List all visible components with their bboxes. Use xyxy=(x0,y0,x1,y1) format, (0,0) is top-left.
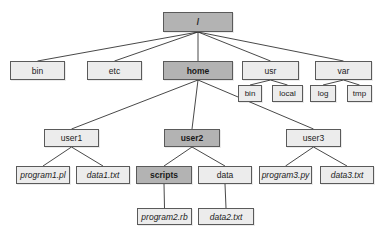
node-label: tmp xyxy=(353,89,366,98)
tree-edge xyxy=(164,147,192,166)
node-label: etc xyxy=(109,66,120,76)
node-scripts-directory: scripts xyxy=(136,166,192,184)
node-label: data2.txt xyxy=(210,212,243,222)
node-bin-directory: bin xyxy=(10,61,65,80)
node-data1-txt-file: data1.txt xyxy=(76,166,130,184)
node-data-directory: data xyxy=(198,166,252,184)
node-label: program3.py xyxy=(262,170,310,180)
node-var-tmp-directory: tmp xyxy=(347,85,372,102)
node-usr-local-directory: local xyxy=(272,85,303,102)
tree-edge xyxy=(43,147,72,166)
tree-edges xyxy=(0,0,386,237)
tree-edge xyxy=(192,80,198,129)
tree-edge xyxy=(286,147,314,166)
node-data2-txt-file: data2.txt xyxy=(198,208,254,225)
node-label: bin xyxy=(245,89,256,98)
tree-edge xyxy=(72,147,104,166)
node-label: bin xyxy=(32,66,43,76)
node-var-directory: var xyxy=(315,61,372,80)
node-user1-directory: user1 xyxy=(44,129,99,147)
node-program1-pl-file: program1.pl xyxy=(16,166,70,184)
tree-edge xyxy=(198,32,344,61)
tree-edge xyxy=(198,32,271,61)
node-label: data xyxy=(217,170,234,180)
node-label: program2.rb xyxy=(141,212,187,222)
node-etc-directory: etc xyxy=(87,61,142,80)
node-program2-rb-file: program2.rb xyxy=(137,208,192,225)
node-usr-bin-directory: bin xyxy=(238,85,262,102)
node-root-directory: / xyxy=(163,12,233,32)
tree-edge xyxy=(164,184,165,208)
node-label: log xyxy=(318,89,329,98)
node-user3-directory: user3 xyxy=(286,129,341,147)
directory-tree-diagram: / bin etc home usr var bin local log tmp… xyxy=(0,0,386,237)
node-label: program1.pl xyxy=(20,170,65,180)
node-user2-directory: user2 xyxy=(164,129,220,147)
node-program3-py-file: program3.py xyxy=(259,166,312,184)
node-label: scripts xyxy=(150,170,178,180)
node-label: data3.txt xyxy=(331,170,364,180)
node-label: data1.txt xyxy=(87,170,120,180)
tree-edge xyxy=(314,147,348,166)
node-label: / xyxy=(197,17,199,27)
tree-edge xyxy=(38,32,199,61)
node-home-directory: home xyxy=(163,61,233,80)
node-data3-txt-file: data3.txt xyxy=(320,166,374,184)
node-label: var xyxy=(338,66,350,76)
node-label: local xyxy=(279,89,295,98)
node-usr-directory: usr xyxy=(242,61,299,80)
node-var-log-directory: log xyxy=(310,85,336,102)
node-label: usr xyxy=(265,66,277,76)
tree-edge xyxy=(192,147,225,166)
node-label: home xyxy=(187,66,210,76)
tree-edge xyxy=(72,80,199,129)
node-label: user3 xyxy=(303,133,324,143)
node-label: user1 xyxy=(61,133,82,143)
tree-edge xyxy=(115,32,199,61)
node-label: user2 xyxy=(181,133,204,143)
tree-edge xyxy=(225,184,226,208)
